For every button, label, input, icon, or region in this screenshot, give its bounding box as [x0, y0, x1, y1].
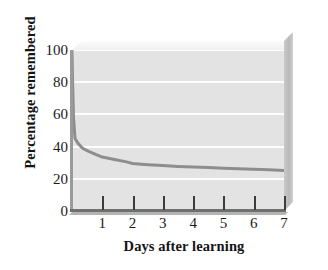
x-tick-mark-2 [133, 196, 135, 210]
y-tick-label-0: 0 [34, 204, 68, 219]
y-axis-spine [70, 50, 73, 212]
x-tick-label-2: 2 [123, 216, 143, 231]
x-tick-mark-1 [102, 196, 104, 210]
x-tick-mark-6 [254, 196, 256, 210]
x-tick-label-6: 6 [244, 216, 264, 231]
x-tick-mark-3 [163, 196, 165, 210]
plot-front-face [72, 50, 284, 211]
plot-area-3d [72, 50, 284, 211]
x-axis-title: Days after learning [72, 238, 296, 255]
plot-right-wall [284, 32, 293, 211]
x-tick-mark-5 [223, 196, 225, 210]
x-tick-mark-7 [284, 196, 286, 210]
y-tick-label-80: 80 [34, 75, 68, 90]
x-tick-label-5: 5 [213, 216, 233, 231]
y-tick-label-group: 020406080100 [36, 0, 68, 270]
x-tick-mark-4 [193, 196, 195, 210]
forgetting-curve-figure: Percentage remembered 020406080100 12345… [0, 0, 328, 270]
x-tick-label-4: 4 [183, 216, 203, 231]
data-curve-svg [72, 50, 284, 211]
y-tick-label-100: 100 [34, 43, 68, 58]
x-tick-label-7: 7 [274, 216, 294, 231]
x-tick-label-3: 3 [153, 216, 173, 231]
x-tick-label-1: 1 [92, 216, 112, 231]
y-tick-label-60: 60 [34, 107, 68, 122]
y-tick-label-20: 20 [34, 172, 68, 187]
y-tick-label-40: 40 [34, 140, 68, 155]
forgetting-curve-line [72, 50, 284, 170]
plot-top-face [72, 41, 294, 50]
